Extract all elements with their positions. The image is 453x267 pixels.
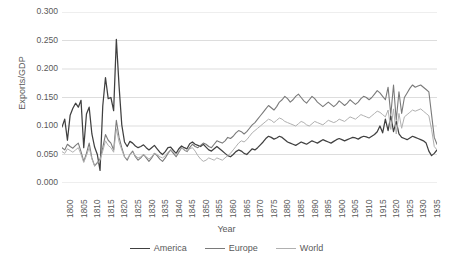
- chart-legend: AmericaEuropeWorld: [0, 243, 453, 253]
- x-axis-tick-label: 1845: [188, 199, 197, 218]
- x-axis-tick-labels: 1800180518101815182018251830183518401845…: [62, 185, 437, 229]
- x-axis-tick-label: 1805: [80, 199, 89, 218]
- y-axis-tick-label: 0.050: [16, 150, 58, 159]
- y-axis-tick-label: 0.300: [16, 7, 58, 16]
- x-axis-tick-label: 1925: [406, 199, 415, 218]
- x-axis-tick-label: 1855: [215, 199, 224, 218]
- legend-swatch-icon: [276, 248, 296, 249]
- x-axis-tick-label: 1820: [120, 199, 129, 218]
- x-axis-tick-label: 1815: [107, 199, 116, 218]
- x-axis-tick-label: 1905: [351, 199, 360, 218]
- x-axis-tick-label: 1915: [379, 199, 388, 218]
- series-line-america: [62, 39, 437, 170]
- legend-swatch-icon: [205, 248, 225, 249]
- chart-container: Exports/GDP 0.0000.0500.1000.1500.2000.2…: [0, 0, 453, 267]
- x-axis-tick-label: 1825: [134, 199, 143, 218]
- y-axis-tick-label: 0.000: [16, 178, 58, 187]
- x-axis-tick-label: 1900: [338, 199, 347, 218]
- x-axis-tick-label: 1835: [161, 199, 170, 218]
- x-axis-tick-label: 1935: [433, 199, 442, 218]
- legend-label: Europe: [229, 243, 258, 253]
- x-axis-tick-label: 1910: [365, 199, 374, 218]
- legend-item-america[interactable]: America: [130, 243, 187, 253]
- legend-item-europe[interactable]: Europe: [205, 243, 258, 253]
- x-axis-tick-label: 1895: [324, 199, 333, 218]
- legend-item-world[interactable]: World: [276, 243, 323, 253]
- gridlines: [62, 12, 437, 183]
- legend-label: World: [300, 243, 323, 253]
- x-axis-tick-label: 1830: [148, 199, 157, 218]
- x-axis-tick-label: 1860: [229, 199, 238, 218]
- series-line-world: [62, 109, 437, 166]
- y-axis-tick-label: 0.100: [16, 121, 58, 130]
- y-axis-tick-label: 0.200: [16, 64, 58, 73]
- x-axis-tick-label: 1880: [283, 199, 292, 218]
- x-axis-tick-label: 1920: [392, 199, 401, 218]
- x-axis-tick-label: 1865: [243, 199, 252, 218]
- x-axis-title: Year: [0, 224, 453, 234]
- legend-swatch-icon: [130, 248, 150, 249]
- x-axis-tick-label: 1850: [202, 199, 211, 218]
- chart-svg: [62, 12, 437, 183]
- y-axis-tick-label: 0.250: [16, 36, 58, 45]
- x-axis-tick-label: 1810: [93, 199, 102, 218]
- legend-label: America: [154, 243, 187, 253]
- x-axis-tick-label: 1885: [297, 199, 306, 218]
- x-axis-tick-label: 1890: [311, 199, 320, 218]
- x-axis-tick-label: 1875: [270, 199, 279, 218]
- x-axis-tick-label: 1930: [419, 199, 428, 218]
- x-axis-tick-label: 1800: [66, 199, 75, 218]
- plot-area: [62, 12, 437, 183]
- series-lines: [62, 39, 437, 170]
- x-axis-tick-label: 1870: [256, 199, 265, 218]
- x-axis-tick-label: 1840: [175, 199, 184, 218]
- y-axis-tick-label: 0.150: [16, 93, 58, 102]
